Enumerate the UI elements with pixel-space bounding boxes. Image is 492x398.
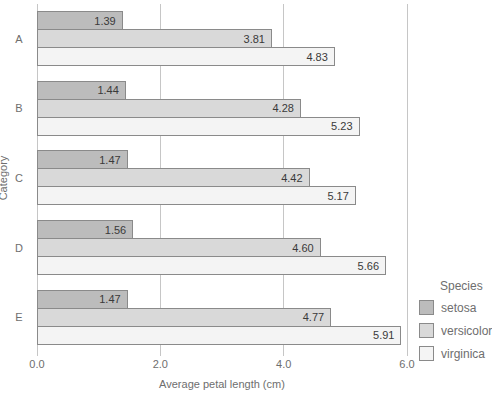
legend-label-versicolor: versicolor — [441, 324, 492, 338]
bar-value-label: 4.77 — [303, 311, 324, 323]
legend: Species setosaversicolorvirginica — [419, 279, 492, 369]
bar-setosa-D: 1.56 — [37, 220, 133, 239]
y-tick-label-A: A — [8, 4, 30, 74]
bar-versicolor-A: 3.81 — [37, 29, 272, 48]
x-axis-title: Average petal length (cm) — [37, 378, 407, 390]
bar-virginica-C: 5.17 — [37, 186, 356, 205]
bar-virginica-E: 5.91 — [37, 326, 401, 345]
bar-value-label: 5.66 — [358, 260, 379, 272]
bar-value-label: 1.47 — [99, 293, 120, 305]
bar-group-D: 1.564.605.66 — [37, 213, 407, 283]
bar-virginica-D: 5.66 — [37, 256, 386, 275]
legend-swatch-setosa — [419, 300, 434, 315]
legend-item-virginica: virginica — [419, 346, 492, 361]
bar-value-label: 3.81 — [244, 33, 265, 45]
y-tick-label-C: C — [8, 143, 30, 213]
legend-item-setosa: setosa — [419, 300, 492, 315]
bar-value-label: 5.23 — [331, 120, 352, 132]
x-tick-mark — [37, 352, 38, 356]
legend-label-virginica: virginica — [441, 347, 485, 361]
bar-setosa-B: 1.44 — [37, 81, 126, 100]
bar-group-B: 1.444.285.23 — [37, 74, 407, 144]
legend-item-versicolor: versicolor — [419, 323, 492, 338]
bar-groups: 1.393.814.831.444.285.231.474.425.171.56… — [37, 4, 407, 352]
x-tick-mark — [407, 352, 408, 356]
bar-setosa-C: 1.47 — [37, 150, 128, 169]
bar-setosa-A: 1.39 — [37, 11, 123, 30]
x-tick-mark — [160, 352, 161, 356]
y-tick-label-D: D — [8, 213, 30, 283]
bar-value-label: 1.47 — [99, 154, 120, 166]
bar-value-label: 1.39 — [94, 15, 115, 27]
legend-title: Species — [440, 279, 492, 293]
bar-versicolor-C: 4.42 — [37, 168, 310, 187]
x-tick-label-4.0: 4.0 — [276, 358, 291, 370]
bar-group-C: 1.474.425.17 — [37, 143, 407, 213]
y-tick-label-B: B — [8, 74, 30, 144]
bar-virginica-B: 5.23 — [37, 117, 360, 136]
bar-value-label: 4.83 — [306, 51, 327, 63]
legend-label-setosa: setosa — [441, 301, 476, 315]
x-tick-mark — [283, 352, 284, 356]
x-tick-label-2.0: 2.0 — [153, 358, 168, 370]
bar-value-label: 5.91 — [373, 329, 394, 341]
bar-value-label: 5.17 — [327, 190, 348, 202]
x-tick-label-0.0: 0.0 — [29, 358, 44, 370]
legend-items: setosaversicolorvirginica — [419, 300, 492, 361]
bar-virginica-A: 4.83 — [37, 47, 335, 66]
bar-value-label: 1.44 — [97, 84, 118, 96]
bar-value-label: 1.56 — [105, 224, 126, 236]
y-tick-label-E: E — [8, 282, 30, 352]
bar-setosa-E: 1.47 — [37, 290, 128, 309]
bar-versicolor-E: 4.77 — [37, 308, 331, 327]
x-tick-label-6.0: 6.0 — [399, 358, 414, 370]
bar-value-label: 4.42 — [281, 172, 302, 184]
bar-versicolor-D: 4.60 — [37, 238, 321, 257]
bar-group-E: 1.474.775.91 — [37, 282, 407, 352]
bar-versicolor-B: 4.28 — [37, 99, 301, 118]
bar-value-label: 4.60 — [292, 242, 313, 254]
bar-value-label: 4.28 — [273, 102, 294, 114]
plot-area: 1.393.814.831.444.285.231.474.425.171.56… — [37, 4, 407, 352]
legend-swatch-virginica — [419, 346, 434, 361]
y-category-labels: ABCDE — [8, 4, 30, 352]
legend-swatch-versicolor — [419, 323, 434, 338]
bar-group-A: 1.393.814.83 — [37, 4, 407, 74]
